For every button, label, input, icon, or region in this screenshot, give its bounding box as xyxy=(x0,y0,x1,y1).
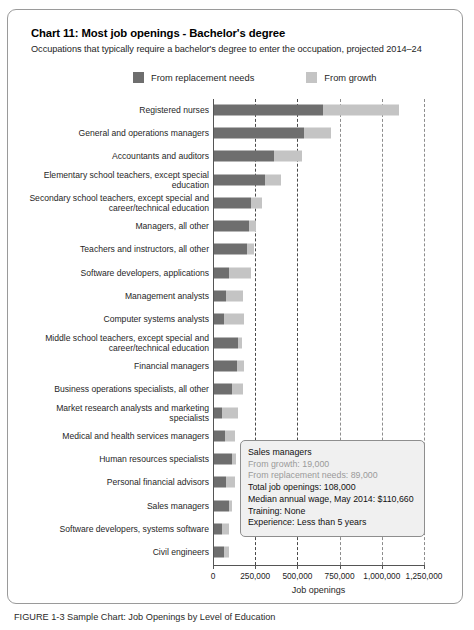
x-tick-label-250000: 250,000 xyxy=(240,571,270,581)
x-tick-label-500000: 500,000 xyxy=(282,571,312,581)
bar-row[interactable]: General and operations managers xyxy=(8,122,463,143)
bar-row[interactable]: Computer systems analysts xyxy=(8,309,463,330)
bar-row[interactable]: Civil engineers xyxy=(8,542,463,563)
bar-segment[interactable] xyxy=(214,291,226,302)
bar-segment[interactable] xyxy=(214,360,237,371)
x-tick-label-750000: 750,000 xyxy=(325,571,355,581)
bar-segment[interactable] xyxy=(214,430,225,441)
bar-row[interactable]: Registered nurses xyxy=(8,99,463,120)
tooltip-experience: Experience: Less than 5 years xyxy=(248,517,417,529)
bar-segment[interactable] xyxy=(226,477,235,488)
bar-segment[interactable] xyxy=(238,337,242,348)
x-tick-1250000 xyxy=(424,565,425,569)
x-tick-label-1000000: 1,000,000 xyxy=(363,571,400,581)
bar-row[interactable]: Accountants and auditors xyxy=(8,146,463,167)
stacked-bar[interactable] xyxy=(214,454,236,465)
stacked-bar[interactable] xyxy=(214,291,243,302)
bar-row[interactable]: Middle school teachers, except special a… xyxy=(8,332,463,353)
stacked-bar[interactable] xyxy=(214,104,399,115)
bar-segment[interactable] xyxy=(224,314,244,325)
bar-segment[interactable] xyxy=(214,337,238,348)
bar-segment[interactable] xyxy=(304,127,331,138)
x-tick-label-1250000: 1,250,000 xyxy=(406,571,443,581)
bar-row-label: Software developers, applications xyxy=(24,268,209,278)
bar-row[interactable]: Financial managers xyxy=(8,355,463,376)
bar-segment[interactable] xyxy=(214,174,265,185)
bar-segment[interactable] xyxy=(214,454,232,465)
bar-row[interactable]: Managers, all other xyxy=(8,216,463,237)
bar-segment[interactable] xyxy=(249,221,256,232)
stacked-bar[interactable] xyxy=(214,314,244,325)
x-axis-line xyxy=(213,565,424,566)
bar-segment[interactable] xyxy=(214,221,249,232)
bar-segment[interactable] xyxy=(323,104,399,115)
bar-row-label: Accountants and auditors xyxy=(24,151,209,161)
bar-segment[interactable] xyxy=(229,500,232,511)
stacked-bar[interactable] xyxy=(214,524,229,535)
bar-segment[interactable] xyxy=(214,384,232,395)
bar-row-label: Teachers and instructors, all other xyxy=(24,244,209,254)
bar-segment[interactable] xyxy=(247,244,254,255)
bar-row[interactable]: Teachers and instructors, all other xyxy=(8,239,463,260)
tooltip-from-replacement: From replacement needs: 89,000 xyxy=(248,470,417,482)
bar-segment[interactable] xyxy=(214,244,247,255)
stacked-bar[interactable] xyxy=(214,221,256,232)
bar-segment[interactable] xyxy=(214,477,226,488)
bar-segment[interactable] xyxy=(229,267,251,278)
tooltip-training: Training: None xyxy=(248,506,417,518)
bar-segment[interactable] xyxy=(214,524,222,535)
bar-row-label: Personal financial advisors xyxy=(24,477,209,487)
bar-segment[interactable] xyxy=(232,454,236,465)
stacked-bar[interactable] xyxy=(214,151,302,162)
bar-row-label: Human resources specialists xyxy=(24,454,209,464)
x-axis-title: Job openings xyxy=(213,585,424,595)
x-tick-0 xyxy=(213,565,214,569)
bar-segment[interactable] xyxy=(226,291,243,302)
stacked-bar[interactable] xyxy=(214,267,251,278)
bar-segment[interactable] xyxy=(214,407,222,418)
bar-segment[interactable] xyxy=(214,314,224,325)
stacked-bar[interactable] xyxy=(214,547,229,558)
stacked-bar[interactable] xyxy=(214,407,238,418)
tooltip-from-growth: From growth: 19,000 xyxy=(248,459,417,471)
tooltip-wage: Median annual wage, May 2014: $110,660 xyxy=(248,494,417,506)
stacked-bar[interactable] xyxy=(214,360,244,371)
stacked-bar[interactable] xyxy=(214,244,254,255)
stacked-bar[interactable] xyxy=(214,430,235,441)
bar-row-label: Financial managers xyxy=(24,361,209,371)
x-tick-750000 xyxy=(340,565,341,569)
bar-row[interactable]: Elementary school teachers, except speci… xyxy=(8,169,463,190)
bar-row-label: Elementary school teachers, except speci… xyxy=(24,169,209,189)
bar-row[interactable]: Software developers, applications xyxy=(8,262,463,283)
stacked-bar[interactable] xyxy=(214,127,331,138)
bar-segment[interactable] xyxy=(222,524,228,535)
stacked-bar[interactable] xyxy=(214,500,232,511)
bar-segment[interactable] xyxy=(214,500,229,511)
bar-segment[interactable] xyxy=(265,174,281,185)
bar-segment[interactable] xyxy=(232,384,242,395)
bar-segment[interactable] xyxy=(214,127,304,138)
stacked-bar[interactable] xyxy=(214,384,243,395)
stacked-bar[interactable] xyxy=(214,174,281,185)
bar-segment[interactable] xyxy=(214,197,251,208)
bar-segment[interactable] xyxy=(251,197,262,208)
bar-row-label: Business operations specialists, all oth… xyxy=(24,384,209,394)
bar-segment[interactable] xyxy=(222,407,238,418)
bar-segment[interactable] xyxy=(274,151,302,162)
x-tick-1000000 xyxy=(382,565,383,569)
bar-segment[interactable] xyxy=(214,151,274,162)
bar-row[interactable]: Market research analysts and marketing s… xyxy=(8,402,463,423)
bar-row[interactable]: Secondary school teachers, except specia… xyxy=(8,192,463,213)
x-tick-label-0: 0 xyxy=(211,571,216,581)
stacked-bar[interactable] xyxy=(214,197,262,208)
stacked-bar[interactable] xyxy=(214,337,242,348)
bar-segment[interactable] xyxy=(214,267,229,278)
bar-segment[interactable] xyxy=(225,430,235,441)
bar-segment[interactable] xyxy=(214,104,323,115)
bar-row[interactable]: Management analysts xyxy=(8,285,463,306)
bar-row[interactable]: Business operations specialists, all oth… xyxy=(8,379,463,400)
bar-segment[interactable] xyxy=(224,547,228,558)
bar-segment[interactable] xyxy=(214,547,224,558)
bar-segment[interactable] xyxy=(237,360,244,371)
stacked-bar[interactable] xyxy=(214,477,235,488)
